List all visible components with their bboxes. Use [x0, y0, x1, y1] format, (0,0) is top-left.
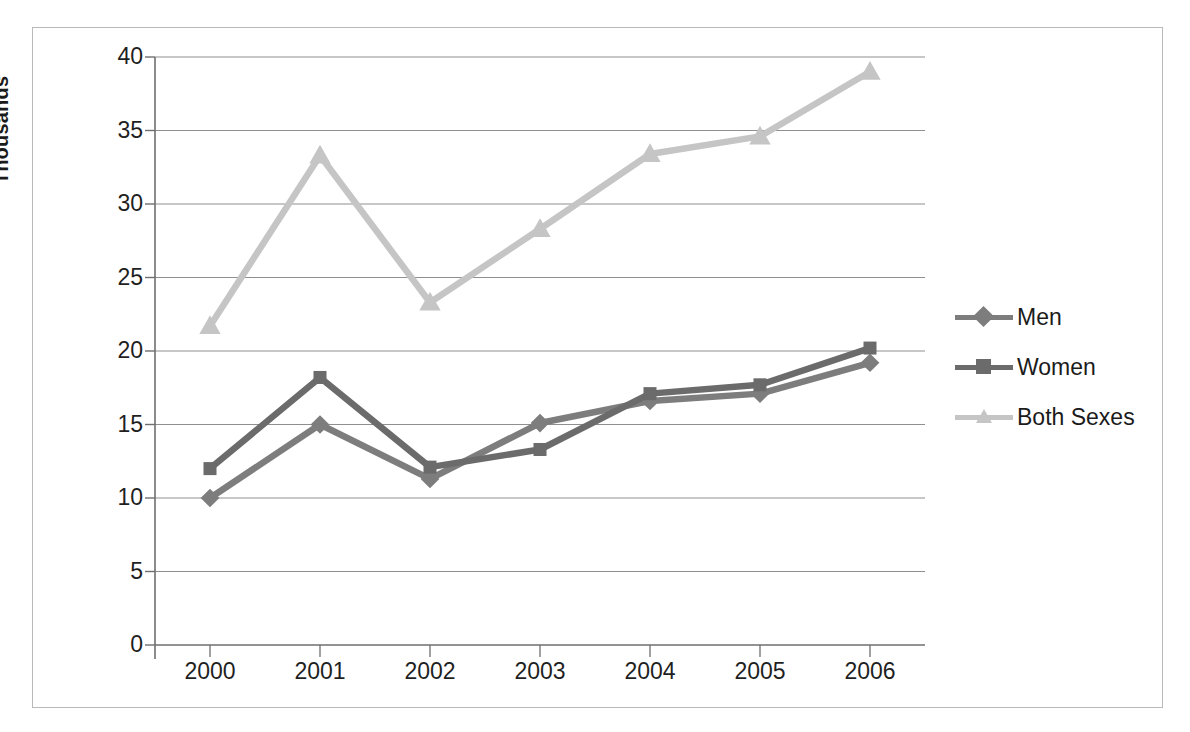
- triangle-marker-icon: [976, 409, 992, 423]
- y-axis-tick-label: 0: [97, 631, 143, 658]
- data-point-marker: [204, 462, 217, 475]
- diamond-marker-icon: [973, 306, 994, 327]
- series-both-sexes: [199, 61, 880, 334]
- y-axis-tick-label: 30: [97, 190, 143, 217]
- legend-item-men[interactable]: Men: [955, 292, 1165, 342]
- data-point-marker: [644, 387, 657, 400]
- legend-label-men: Men: [1017, 304, 1062, 331]
- x-axis-tick-label: 2004: [605, 658, 695, 685]
- data-point-marker: [424, 461, 437, 474]
- data-point-marker: [864, 342, 877, 355]
- series-line: [210, 72, 870, 326]
- x-axis-tick-label: 2005: [715, 658, 805, 685]
- series-women: [204, 342, 877, 476]
- line-chart: Thousands 0510152025303540 2000200120022…: [0, 0, 1190, 732]
- legend-swatch-both-sexes: [955, 406, 1013, 428]
- y-axis-title: Thousands: [0, 40, 13, 220]
- y-axis-tick-label: 35: [97, 117, 143, 144]
- x-axis-tick-label: 2001: [275, 658, 365, 685]
- x-axis-tick-label: 2002: [385, 658, 475, 685]
- legend-label-both-sexes: Both Sexes: [1017, 404, 1135, 431]
- data-point-marker: [534, 443, 547, 456]
- y-axis-tick-label: 5: [97, 558, 143, 585]
- data-point-marker: [859, 61, 880, 80]
- y-axis-tick-label: 10: [97, 484, 143, 511]
- square-marker-icon: [976, 359, 991, 374]
- x-axis-tick-label: 2003: [495, 658, 585, 685]
- legend-item-both-sexes[interactable]: Both Sexes: [955, 392, 1165, 442]
- data-point-marker: [754, 378, 767, 391]
- chart-legend: Men Women Both Sexes: [955, 292, 1165, 442]
- x-axis-tick-label: 2000: [165, 658, 255, 685]
- data-point-marker: [861, 353, 880, 372]
- data-point-marker: [309, 145, 330, 164]
- legend-swatch-men: [955, 306, 1013, 328]
- x-axis-tick-label: 2006: [825, 658, 915, 685]
- y-axis-tick-label: 40: [97, 43, 143, 70]
- y-axis-tick-label: 25: [97, 264, 143, 291]
- y-axis-tick-label: 20: [97, 337, 143, 364]
- legend-item-women[interactable]: Women: [955, 342, 1165, 392]
- legend-label-women: Women: [1017, 354, 1096, 381]
- legend-swatch-women: [955, 356, 1013, 378]
- data-point-marker: [314, 371, 327, 384]
- y-axis-tick-label: 15: [97, 411, 143, 438]
